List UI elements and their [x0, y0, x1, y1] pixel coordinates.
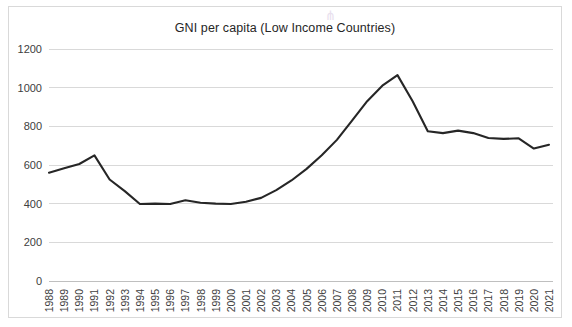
x-axis-tick-label: 1998 — [195, 289, 207, 313]
x-axis-tick-label: 1988 — [43, 289, 55, 313]
x-axis-tick-label: 2021 — [543, 289, 555, 313]
x-axis-tick-label: 2002 — [255, 289, 267, 313]
x-axis-tick-label: 2020 — [528, 289, 540, 313]
x-axis-tick-label: 2018 — [498, 289, 510, 313]
x-axis-tick-label: 2010 — [376, 289, 388, 313]
y-axis-tick-label: 800 — [24, 120, 42, 132]
line-chart-plot: 020040060080010001200 198819891990199119… — [9, 7, 563, 319]
x-axis-tick-label: 2008 — [346, 289, 358, 313]
y-axis-tick-label: 400 — [24, 198, 42, 210]
x-axis-tick-label: 2005 — [301, 289, 313, 313]
x-axis-tick-label: 2004 — [285, 289, 297, 313]
y-axis-tick-labels: 020040060080010001200 — [18, 43, 42, 287]
x-axis-tick-label: 1999 — [210, 289, 222, 313]
x-axis-tick-label: 1991 — [88, 289, 100, 313]
x-axis-tick-label: 2013 — [422, 289, 434, 313]
x-axis-tick-label: 2003 — [270, 289, 282, 313]
y-axis-tick-label: 1000 — [18, 82, 42, 94]
x-axis-tick-label: 1996 — [164, 289, 176, 313]
x-axis-tick-label: 2016 — [467, 289, 479, 313]
x-axis-tick-label: 2001 — [240, 289, 252, 313]
data-series — [49, 75, 549, 204]
x-axis-tick-label: 1995 — [149, 289, 161, 313]
x-axis-tick-label: 1997 — [179, 289, 191, 313]
x-axis-tick-label: 2017 — [482, 289, 494, 313]
x-axis-tick-label: 1994 — [134, 289, 146, 313]
x-axis-tick-label: 1993 — [119, 289, 131, 313]
x-axis-tick-label: 2009 — [361, 289, 373, 313]
y-axis-tick-label: 600 — [24, 159, 42, 171]
x-axis-tick-label: 1992 — [104, 289, 116, 313]
x-axis-tick-label: 2000 — [225, 289, 237, 313]
chart-container: GNI per capita (Low Income Countries) ⋔ … — [8, 6, 562, 318]
x-axis-tick-label: 2006 — [316, 289, 328, 313]
x-axis-tick-label: 1989 — [58, 289, 70, 313]
x-axis-tick-label: 2011 — [391, 289, 403, 312]
y-axis-tick-label: 1200 — [18, 43, 42, 55]
x-axis-tick-label: 2012 — [407, 289, 419, 313]
y-axis-tick-label: 0 — [36, 275, 42, 287]
gridlines — [49, 49, 553, 281]
x-axis-tick-label: 1990 — [73, 289, 85, 313]
x-axis-tick-label: 2014 — [437, 289, 449, 313]
series-line-gni-per-capita — [49, 75, 549, 204]
x-axis-tick-label: 2015 — [452, 289, 464, 313]
x-axis-tick-label: 2007 — [331, 289, 343, 313]
x-axis-tick-labels: 1988198919901991199219931994199519961997… — [43, 289, 555, 313]
x-axis-tick-label: 2019 — [513, 289, 525, 313]
y-axis-tick-label: 200 — [24, 236, 42, 248]
